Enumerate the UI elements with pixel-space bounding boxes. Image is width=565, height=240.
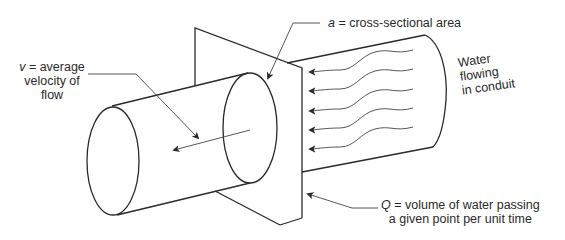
flow-arrows: [310, 50, 413, 149]
velocity-arrow: [174, 130, 250, 150]
water-label: Water flowing in conduit: [457, 49, 516, 98]
velocity-label: v = average velocity of flow: [14, 60, 90, 102]
conduit-left-section: [87, 73, 277, 215]
cross-section-plane: [195, 28, 302, 225]
discharge-label: Q = volume of water passing a given poin…: [381, 198, 540, 226]
area-leader: [268, 23, 320, 78]
velocity-leader: [88, 74, 198, 138]
discharge-leader: [308, 194, 378, 208]
area-label: a = cross-sectional area: [328, 16, 461, 30]
